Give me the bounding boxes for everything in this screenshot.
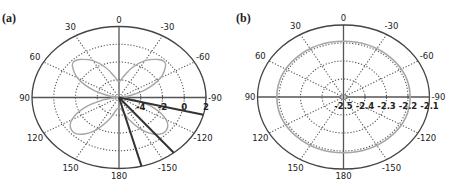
angular-grid-spoke	[44, 98, 119, 134]
angular-tick-label: 180	[335, 171, 351, 181]
radial-tick-label: -2.5	[334, 101, 353, 111]
radial-tick-label: -4	[136, 102, 146, 112]
radial-tick-label: -2.4	[356, 101, 375, 111]
angular-tick-label: -120	[417, 133, 436, 143]
angular-tick-label: -30	[161, 22, 175, 32]
angular-tick-label: 60	[255, 51, 266, 61]
panel-label: (a)	[2, 11, 16, 25]
radial-tick-label: 2	[203, 102, 209, 112]
polar-chart-a: (a)0-30-60-90-120-150180150120906030-4-2…	[2, 11, 222, 181]
angular-tick-label: -120	[193, 133, 212, 143]
radial-tick-label: -2.1	[420, 101, 439, 111]
angular-tick-label: 120	[252, 133, 268, 143]
radial-tick-label: -2	[158, 102, 168, 112]
angular-tick-label: 90	[19, 93, 30, 103]
angular-tick-label: 0	[116, 15, 121, 25]
angular-tick-label: -90	[208, 93, 222, 103]
angular-grid-spoke	[76, 36, 120, 97]
angular-grid-spoke	[119, 62, 194, 98]
angular-grid-spoke	[119, 36, 163, 97]
polar-chart-b: (b)0-30-60-90-120-150180150120906030-2.5…	[236, 11, 445, 181]
radial-tick-label: -2.2	[399, 101, 418, 111]
angular-tick-label: 60	[30, 52, 41, 62]
angular-tick-label: 120	[27, 133, 43, 143]
angular-tick-label: -30	[385, 21, 399, 31]
angular-tick-label: -150	[158, 163, 177, 173]
angular-grid-spoke	[44, 62, 119, 98]
panel-label: (b)	[236, 11, 251, 25]
radial-tick-label: 0	[181, 102, 187, 112]
angular-tick-label: 0	[341, 13, 346, 23]
polar-charts: (a)0-30-60-90-120-150180150120906030-4-2…	[0, 0, 462, 193]
angular-tick-label: 150	[62, 163, 78, 173]
radial-tick-label: -2.3	[377, 101, 396, 111]
angular-tick-label: 150	[287, 163, 303, 173]
angular-tick-label: -150	[382, 163, 401, 173]
angular-tick-label: -60	[420, 51, 434, 61]
angular-tick-label: 90	[245, 92, 256, 102]
angular-tick-label: 30	[65, 22, 76, 32]
angular-tick-label: 30	[290, 21, 301, 31]
angular-tick-label: -60	[196, 52, 210, 62]
angular-tick-label: 180	[111, 171, 127, 181]
